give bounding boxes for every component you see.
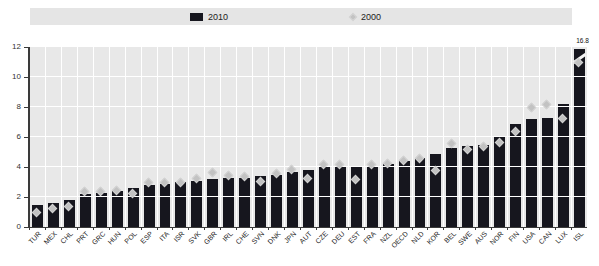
bar-2010-esp [144, 185, 155, 227]
x-axis-tick [396, 227, 397, 230]
category-column-tur: TUR [30, 47, 45, 227]
x-axis-label-can: CAN [537, 230, 552, 245]
x-axis-label-isr: ISR [173, 230, 186, 243]
bar-2010-ita [160, 184, 171, 228]
bar-2010-fin [510, 124, 521, 228]
gridline [30, 106, 587, 107]
y-axis-tick [24, 197, 28, 198]
y-axis-tick-label: 2 [17, 193, 21, 201]
x-axis-tick [172, 227, 173, 230]
category-column-che: CHE [236, 47, 252, 227]
x-axis-tick [523, 227, 524, 230]
x-axis-label-nld: NLD [410, 230, 425, 245]
y-axis-tick-label: 6 [17, 133, 21, 141]
category-column-can: CAN [539, 47, 555, 227]
y-axis-labels: 024681012 [0, 47, 24, 227]
category-column-pol: POL [125, 47, 141, 227]
x-axis-tick [93, 227, 94, 230]
bar-2010-nld [415, 158, 426, 227]
x-axis-label-bel: BEL [442, 230, 456, 244]
x-axis-label-prt: PRT [75, 230, 90, 245]
x-axis-label-swe: SWE [457, 230, 473, 246]
x-axis-label-est: EST [347, 230, 362, 245]
category-column-bel: BEL [443, 47, 459, 227]
category-column-nor: NOR [491, 47, 507, 227]
x-axis-label-hun: HUN [106, 230, 122, 246]
category-column-hun: HUN [109, 47, 125, 227]
x-axis-tick [204, 227, 205, 230]
x-axis-tick [61, 227, 62, 230]
x-axis-tick [141, 227, 142, 230]
x-axis-tick [459, 227, 460, 230]
x-axis-tick [427, 227, 428, 230]
x-axis-label-oecd: OECD [390, 230, 409, 249]
bar-2010-deu [335, 167, 346, 227]
category-column-aus: AUS [475, 47, 491, 227]
bar-2010-can [542, 118, 553, 228]
gridline [30, 76, 587, 77]
marker-2000-usa [526, 103, 536, 113]
x-axis-label-fra: FRA [362, 230, 377, 245]
category-column-svk: SVK [188, 47, 204, 227]
category-column-grc: GRC [93, 47, 109, 227]
y-axis-tick [24, 167, 28, 168]
gridline [30, 196, 587, 197]
category-column-nld: NLD [412, 47, 428, 227]
bar-2010-swe [462, 146, 473, 227]
y-axis-tick [24, 227, 28, 228]
category-column-irl: IRL [220, 47, 236, 227]
bar-2010-cze [319, 167, 330, 227]
x-axis-tick [300, 227, 301, 230]
category-column-kor: KOR [427, 47, 443, 227]
x-axis-label-ita: ITA [158, 230, 170, 242]
bar-2010-dnk [271, 175, 282, 228]
bar-2010-nor [494, 136, 505, 228]
chart-legend: 2010 2000 [30, 8, 572, 25]
x-axis-tick [220, 227, 221, 230]
category-column-aut: AUT [300, 47, 316, 227]
bar-2010-irl [223, 178, 234, 228]
x-axis-tick [380, 227, 381, 230]
x-axis-tick [364, 227, 365, 230]
y-axis-tick-label: 0 [17, 223, 21, 231]
category-column-cze: CZE [316, 47, 332, 227]
bar-2010-gbr [207, 179, 218, 227]
x-axis-tick [157, 227, 158, 230]
gridline [30, 136, 587, 137]
bar-2010-jpn [287, 172, 298, 228]
x-axis-tick [491, 227, 492, 230]
x-axis-tick [188, 227, 189, 230]
legend-item-2000: 2000 [350, 12, 381, 22]
legend-item-2010: 2010 [190, 12, 228, 22]
category-column-svn: SVN [252, 47, 268, 227]
x-axis-tick [45, 227, 46, 230]
category-column-usa: USA [523, 47, 539, 227]
bar-2010-che [239, 178, 250, 228]
category-column-gbr: GBR [204, 47, 220, 227]
bar-2010-grc [96, 193, 107, 228]
y-axis-tick-label: 4 [17, 163, 21, 171]
x-axis-tick [268, 227, 269, 230]
category-column-fra: FRA [364, 47, 380, 227]
y-axis-tick-label: 10 [12, 73, 21, 81]
x-axis-label-nor: NOR [489, 230, 505, 246]
y-axis-tick [24, 107, 28, 108]
bar-2010-kor [430, 154, 441, 228]
x-axis-label-dnk: DNK [266, 230, 281, 245]
category-column-dnk: DNK [268, 47, 284, 227]
x-axis-label-chl: CHL [59, 230, 74, 245]
x-axis-tick [412, 227, 413, 230]
x-axis-tick [475, 227, 476, 230]
bar-2010-oecd [399, 161, 410, 227]
x-axis-tick [332, 227, 333, 230]
x-axis-label-esp: ESP [139, 230, 154, 245]
category-column-mex: MEX [45, 47, 61, 227]
bar-2010-isr [175, 182, 186, 227]
category-column-lux: LUX [555, 47, 571, 227]
x-axis-tick [571, 227, 572, 230]
x-axis-label-kor: KOR [425, 230, 441, 246]
category-column-est: EST [348, 47, 364, 227]
y-axis-tick [24, 77, 28, 78]
marker-2000-gbr [207, 167, 217, 177]
x-axis-label-gbr: GBR [202, 230, 218, 246]
